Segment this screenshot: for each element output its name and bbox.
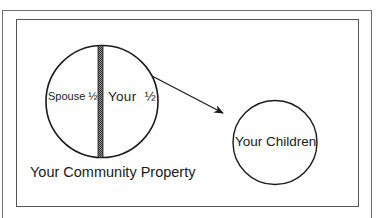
inheritance-arrow xyxy=(152,76,223,113)
community-property-label: Your Community Property xyxy=(30,165,195,180)
spouse-half-label: Spouse ½ xyxy=(48,91,98,102)
divider-bar xyxy=(98,46,103,158)
children-label: Your Children xyxy=(235,135,316,149)
your-half-label: Your ½ xyxy=(108,90,156,104)
property-diagram xyxy=(0,0,377,218)
